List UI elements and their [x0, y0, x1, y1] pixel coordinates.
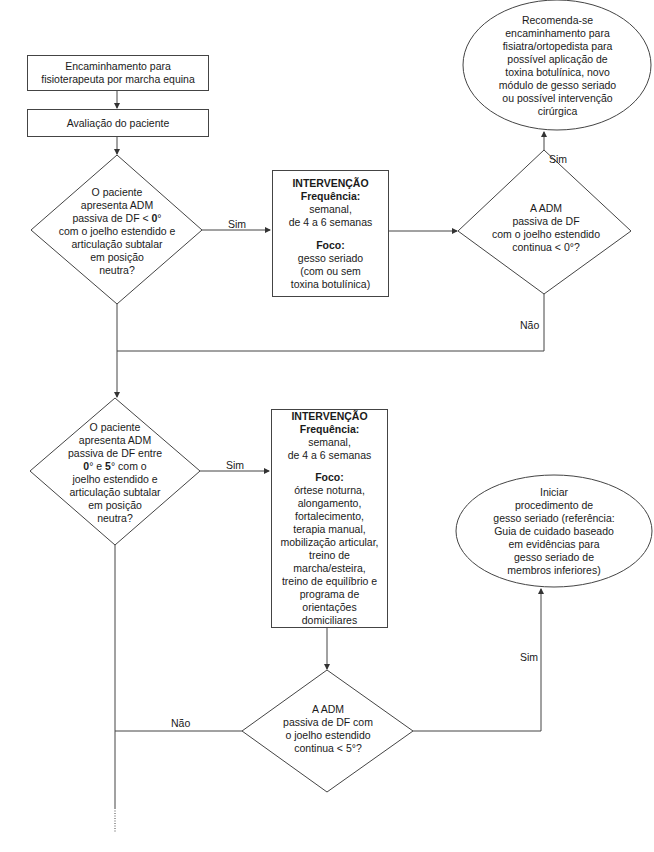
i2-focus-line: programa de [300, 588, 360, 601]
i1-focus-line: toxina botulínica) [291, 278, 370, 291]
d2-line: A ADM [530, 202, 562, 215]
o1-line: módulo de gesso seriado [499, 79, 616, 92]
i2-focus-line: terapia manual, [293, 523, 365, 536]
d1-line-part: passiva de DF < [72, 212, 151, 224]
i1-freq-label: Frequência: [301, 190, 361, 203]
d2-line: continua < 0°? [512, 241, 580, 254]
i1-focus-line: gesso seriado [298, 252, 363, 265]
outcome1-text: Recomenda-se encaminhamento para fisiatr… [480, 10, 635, 122]
i2-focus-label: Foco: [315, 471, 344, 484]
referral-line-1: Encaminhamento para [65, 60, 171, 73]
i2-title: INTERVENÇÃO [291, 410, 367, 423]
d1-line: em posição [90, 251, 144, 264]
d3-line: articulação subtalar [69, 486, 160, 499]
o2-line: procedimento de [515, 499, 593, 512]
o1-line: toxina botulínica, novo [505, 66, 610, 79]
d4-line: continua < 5°? [294, 742, 362, 755]
intervention2-box: INTERVENÇÃO Frequência: semanal, de 4 a … [271, 409, 388, 628]
o1-line: cirúrgica [538, 105, 578, 118]
referral-box: Encaminhamento para fisioterapeuta por m… [27, 55, 209, 91]
d2-yes-label: Sim [549, 153, 567, 165]
o1-line: encaminhamento para [505, 27, 609, 40]
o2-line: Guia de cuidado baseado [494, 525, 614, 538]
o2-line: Iniciar [540, 486, 568, 499]
d3-part: ° com o [111, 460, 147, 472]
i2-freq-line: semanal, [308, 436, 351, 449]
d3-yes-label: Sim [226, 459, 244, 471]
o2-line: gesso seriado de [514, 551, 594, 564]
d2-no-label: Não [520, 319, 539, 331]
o2-line: membros inferiores) [507, 564, 600, 577]
d1-line: com o joelho estendido e [59, 225, 176, 238]
decision1-text: O paciente apresenta ADM passiva de DF <… [47, 188, 187, 274]
i1-focus-label: Foco: [316, 239, 345, 252]
d4-line: A ADM [312, 703, 344, 716]
i2-focus-line: treino de [309, 549, 350, 562]
i2-focus-line: domiciliares [302, 614, 357, 627]
d4-no-label: Não [171, 717, 190, 729]
d4-line: passiva de DF com [283, 716, 373, 729]
d4-yes-label: Sim [520, 651, 538, 663]
i2-focus-line: mobilização articular, [280, 536, 378, 549]
d2-line: passiva de DF [512, 215, 579, 228]
i2-focus-line: alongamento, [298, 497, 362, 510]
decision3-text: O paciente apresenta ADM passiva de DF e… [50, 420, 180, 526]
d1-line: neutra? [99, 264, 135, 277]
i2-focus-line: marcha/esteira, [293, 562, 365, 575]
d3-line: apresenta ADM [79, 434, 151, 447]
evaluation-box: Avaliação do paciente [27, 109, 209, 137]
i1-freq-line: de 4 a 6 semanas [289, 216, 372, 229]
intervention1-box: INTERVENÇÃO Frequência: semanal, de 4 a … [272, 170, 389, 297]
o2-line: em evidências para [508, 538, 599, 551]
d1-line: apresenta ADM [81, 199, 153, 212]
i1-title: INTERVENÇÃO [292, 177, 368, 190]
o2-line: gesso seriado (referência: [493, 512, 614, 525]
d1-line: articulação subtalar [71, 238, 162, 251]
referral-line-2: fisioterapeuta por marcha equina [41, 73, 195, 86]
d3-line: O paciente [90, 421, 141, 434]
i2-focus-line: fortalecimento, [295, 510, 364, 523]
i2-focus-line: treino de equilíbrio e [282, 575, 377, 588]
d3-line: joelho estendido e [72, 473, 157, 486]
i2-focus-line: orientações [302, 601, 356, 614]
d4-line: o joelho estendido [285, 729, 370, 742]
d2-line: com o joelho estendido [492, 228, 600, 241]
d3-part: ° e [89, 460, 105, 472]
o1-line: Recomenda-se [522, 14, 593, 27]
d1-yes-label: Sim [228, 218, 246, 230]
i1-focus-line: (com ou sem [300, 265, 361, 278]
i2-freq-label: Frequência: [300, 423, 360, 436]
o1-line: possível aplicação de [507, 53, 607, 66]
d3-line: 0° e 5° com o [83, 460, 146, 473]
d1-line: O paciente [92, 186, 143, 199]
i1-freq-line: semanal, [309, 203, 352, 216]
d1-line: passiva de DF < 0° [72, 212, 161, 225]
decision2-text: A ADM passiva de DF com o joelho estendi… [484, 200, 608, 256]
d3-line: neutra? [97, 512, 133, 525]
outcome2-text: Iniciar procedimento de gesso seriado (r… [474, 484, 634, 578]
d1-degree: ° [157, 212, 161, 224]
decision4-text: A ADM passiva de DF com o joelho estendi… [272, 701, 384, 757]
o1-line: fisiatra/ortopedista para [503, 40, 613, 53]
d3-line: em posição [88, 499, 142, 512]
o1-line: ou possível intervenção [502, 92, 612, 105]
d3-line: passiva de DF entre [68, 447, 162, 460]
evaluation-text: Avaliação do paciente [67, 117, 170, 130]
i2-focus-line: órtese noturna, [294, 484, 365, 497]
i2-freq-line: de 4 a 6 semanas [288, 449, 371, 462]
